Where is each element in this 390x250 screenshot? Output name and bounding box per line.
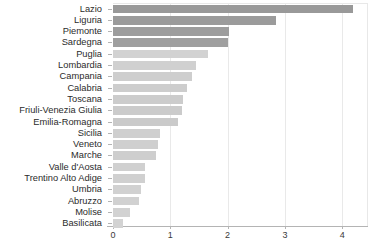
y-tick (108, 212, 112, 213)
bar-liguria (113, 16, 276, 25)
y-tick (108, 88, 112, 89)
y-tick (108, 189, 112, 190)
x-tick-label: 2 (225, 230, 230, 241)
y-tick (108, 31, 112, 32)
category-label-toscana: Toscana (67, 94, 102, 105)
category-label-basilicata: Basilicata (62, 218, 102, 229)
category-label-trentino-alto-adige: Trentino Alto Adige (24, 173, 102, 184)
y-tick (108, 122, 112, 123)
bar-row: Abruzzo (0, 196, 390, 207)
category-label-campania: Campania (60, 71, 102, 82)
y-tick (108, 76, 112, 77)
bar-molise (113, 208, 130, 217)
x-tick-label: 1 (168, 230, 173, 241)
category-label-lazio: Lazio (80, 4, 102, 15)
bar-lombardia (113, 61, 196, 70)
bar-calabria (113, 84, 187, 93)
y-tick (108, 110, 112, 111)
category-label-valle-d-aosta: Valle d'Aosta (49, 162, 102, 173)
y-tick (108, 178, 112, 179)
y-tick (108, 54, 112, 55)
bar-row: Calabria (0, 83, 390, 94)
bar-veneto (113, 140, 158, 149)
bar-emilia-romagna (113, 118, 178, 127)
bar-trentino-alto-adige (113, 174, 145, 183)
bar-row: Emilia-Romagna (0, 117, 390, 128)
x-tick-label: 3 (282, 230, 287, 241)
category-label-veneto: Veneto (73, 139, 102, 150)
category-label-umbria: Umbria (72, 184, 102, 195)
category-label-friuli-venezia-giulia: Friuli-Venezia Giulia (19, 105, 102, 116)
y-tick (108, 144, 112, 145)
y-tick (108, 99, 112, 100)
bar-row: Marche (0, 150, 390, 161)
category-label-emilia-romagna: Emilia-Romagna (33, 117, 102, 128)
y-tick (108, 42, 112, 43)
category-label-puglia: Puglia (76, 49, 102, 60)
x-tick-label: 0 (110, 230, 115, 241)
bar-chart: 01234 LazioLiguriaPiemonteSardegnaPuglia… (0, 0, 390, 250)
y-tick (108, 223, 112, 224)
bar-row: Campania (0, 71, 390, 82)
category-label-abruzzo: Abruzzo (68, 196, 102, 207)
bar-row: Piemonte (0, 26, 390, 37)
category-label-marche: Marche (71, 150, 102, 161)
bar-row: Liguria (0, 15, 390, 26)
bar-row: Basilicata (0, 218, 390, 229)
bar-row: Friuli-Venezia Giulia (0, 105, 390, 116)
bar-sicilia (113, 129, 160, 138)
bar-piemonte (113, 27, 229, 36)
bar-campania (113, 72, 192, 81)
bar-row: Trentino Alto Adige (0, 173, 390, 184)
category-label-sardegna: Sardegna (62, 37, 102, 48)
x-tick-label: 4 (340, 230, 345, 241)
bar-marche (113, 151, 156, 160)
bar-abruzzo (113, 197, 139, 206)
y-tick (108, 155, 112, 156)
bar-row: Umbria (0, 184, 390, 195)
bar-row: Valle d'Aosta (0, 162, 390, 173)
bar-umbria (113, 185, 141, 194)
bar-basilicata (113, 219, 123, 228)
y-tick (108, 9, 112, 10)
y-tick (108, 201, 112, 202)
category-label-calabria: Calabria (67, 83, 102, 94)
bar-puglia (113, 50, 208, 59)
bar-row: Veneto (0, 139, 390, 150)
bar-toscana (113, 95, 183, 104)
category-label-liguria: Liguria (74, 15, 102, 26)
category-label-sicilia: Sicilia (78, 128, 102, 139)
bar-row: Lombardia (0, 60, 390, 71)
bar-row: Toscana (0, 94, 390, 105)
bar-row: Lazio (0, 4, 390, 15)
bar-lazio (113, 5, 353, 14)
bar-row: Sicilia (0, 128, 390, 139)
bar-sardegna (113, 38, 228, 47)
bar-row: Puglia (0, 49, 390, 60)
bar-row: Molise (0, 207, 390, 218)
bar-friuli-venezia-giulia (113, 106, 182, 115)
category-label-molise: Molise (75, 207, 102, 218)
bar-row: Sardegna (0, 37, 390, 48)
y-tick (108, 20, 112, 21)
y-tick (108, 65, 112, 66)
y-tick (108, 167, 112, 168)
y-tick (108, 133, 112, 134)
bar-valle-d-aosta (113, 163, 145, 172)
category-label-piemonte: Piemonte (63, 26, 102, 37)
category-label-lombardia: Lombardia (58, 60, 102, 71)
